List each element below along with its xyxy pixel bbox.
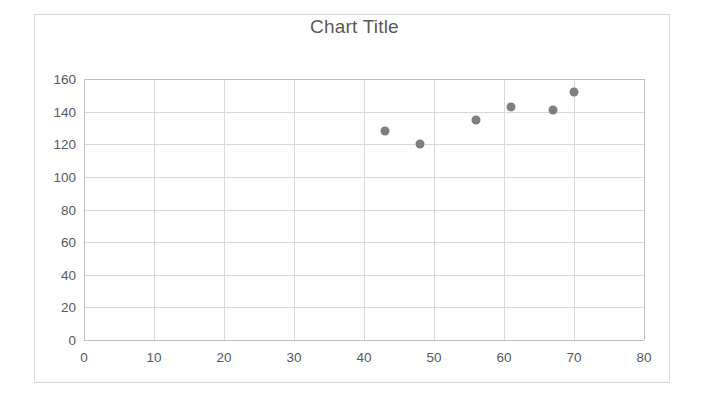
data-point[interactable] [381,127,390,136]
x-axis-tick-60: 60 [496,350,511,365]
x-axis-tick-70: 70 [566,350,581,365]
y-axis-tick-160: 160 [34,72,76,87]
grid-lines [0,0,709,395]
data-point[interactable] [472,115,481,124]
y-axis-tick-120: 120 [34,137,76,152]
data-point[interactable] [549,105,558,114]
data-point[interactable] [416,140,425,149]
x-axis-tick-20: 20 [216,350,231,365]
x-axis-tick-50: 50 [426,350,441,365]
data-point[interactable] [570,88,579,97]
x-axis-tick-30: 30 [286,350,301,365]
y-axis-tick-0: 0 [34,333,76,348]
plot-area: 020406080100120140160 01020304050607080 [0,0,709,395]
y-axis-tick-60: 60 [34,235,76,250]
x-axis-tick-80: 80 [636,350,651,365]
y-axis-tick-100: 100 [34,169,76,184]
y-axis-tick-20: 20 [34,300,76,315]
x-axis-tick-0: 0 [80,350,88,365]
y-axis-tick-80: 80 [34,202,76,217]
data-point[interactable] [507,102,516,111]
x-axis-tick-10: 10 [146,350,161,365]
y-axis-tick-40: 40 [34,267,76,282]
x-axis-tick-40: 40 [356,350,371,365]
y-axis-tick-140: 140 [34,104,76,119]
